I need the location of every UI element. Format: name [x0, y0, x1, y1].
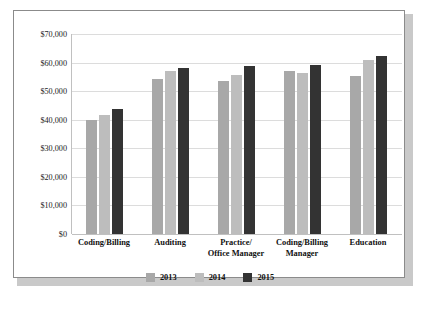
bar-layer: [71, 34, 401, 234]
bar-group: [269, 34, 335, 234]
y-axis-tick-label: $30,000: [19, 144, 67, 153]
legend-swatch-icon: [146, 273, 155, 282]
bar: [231, 75, 242, 234]
bar: [99, 115, 110, 234]
x-axis-category-label-line1: Coding/Billing: [78, 238, 130, 247]
x-axis-category-label-line1: Auditing: [154, 238, 186, 247]
y-axis-tick-label: $0: [19, 230, 67, 239]
bar: [218, 81, 229, 234]
chart-frame: $70,000$60,000$50,000$40,000$30,000$20,0…: [13, 10, 405, 278]
x-axis-category-label-line2: Office Manager: [203, 248, 269, 259]
bar-group: [335, 34, 401, 234]
y-axis-tick-label: $70,000: [19, 30, 67, 39]
x-axis-category-label: Practice/Office Manager: [203, 237, 269, 259]
legend-item-label: 2013: [160, 273, 177, 282]
bar: [297, 73, 308, 234]
x-axis-category-label-line1: Coding/Billing: [276, 238, 328, 247]
y-axis-tick-label: $50,000: [19, 87, 67, 96]
chart-figure: $70,000$60,000$50,000$40,000$30,000$20,0…: [0, 0, 424, 310]
bar: [350, 76, 361, 234]
legend-swatch-icon: [195, 273, 204, 282]
x-axis-category-label-line1: Education: [350, 238, 387, 247]
bar: [86, 120, 97, 234]
bar: [376, 56, 387, 234]
x-axis-category-label: Coding/BillingManager: [269, 237, 335, 259]
legend-swatch-icon: [243, 273, 252, 282]
x-axis-category-label: Coding/Billing: [71, 237, 137, 248]
x-axis-category-label: Education: [335, 237, 401, 248]
bar-group: [71, 34, 137, 234]
gridline: [72, 234, 402, 235]
legend-item-label: 2014: [209, 273, 226, 282]
bar: [363, 60, 374, 234]
legend-item[interactable]: 2013: [146, 273, 177, 282]
y-axis-tick-label: $10,000: [19, 201, 67, 210]
x-axis: Coding/BillingAuditingPractice/Office Ma…: [71, 237, 401, 271]
x-axis-category-label-line1: Practice/: [220, 238, 252, 247]
bar: [152, 79, 163, 234]
legend-item-label: 2015: [257, 273, 274, 282]
bar: [112, 109, 123, 234]
bar: [310, 65, 321, 234]
legend-item[interactable]: 2015: [243, 273, 274, 282]
bar-group: [203, 34, 269, 234]
y-axis: $70,000$60,000$50,000$40,000$30,000$20,0…: [16, 34, 67, 234]
bar: [165, 71, 176, 234]
bar-group: [137, 34, 203, 234]
bar: [244, 66, 255, 234]
bar: [178, 68, 189, 234]
legend-item[interactable]: 2014: [195, 273, 226, 282]
x-axis-category-label-line2: Manager: [269, 248, 335, 259]
y-axis-tick-label: $60,000: [19, 58, 67, 67]
x-axis-category-label: Auditing: [137, 237, 203, 248]
y-axis-tick-label: $40,000: [19, 115, 67, 124]
bar: [284, 71, 295, 234]
y-axis-tick-label: $20,000: [19, 172, 67, 181]
chart-legend: 201320142015: [14, 273, 406, 282]
